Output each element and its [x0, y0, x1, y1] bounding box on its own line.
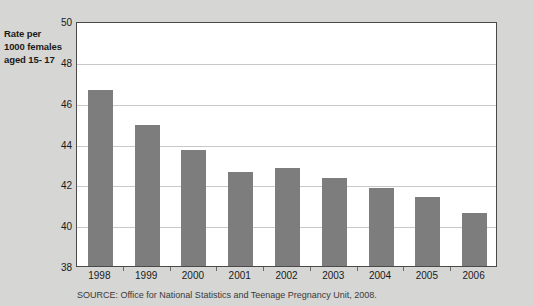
x-axis-tick-label: 2001 — [229, 270, 251, 281]
x-axis-tick-label: 2002 — [275, 270, 297, 281]
bar — [88, 90, 113, 266]
x-axis-tick-label: 1998 — [88, 270, 110, 281]
bar — [415, 197, 440, 266]
y-axis-tick-labels: 50484644424038 — [48, 22, 72, 267]
plot-area — [76, 22, 497, 267]
y-axis-tick-label: 42 — [50, 180, 72, 191]
y-axis-tick-label: 46 — [50, 98, 72, 109]
x-axis-tick-labels: 199819992000200120022003200420052006 — [76, 270, 497, 286]
bar — [322, 178, 347, 266]
bar — [369, 188, 394, 266]
bar — [135, 125, 160, 266]
bar-series — [77, 23, 496, 266]
source-note: SOURCE: Office for National Statistics a… — [77, 290, 377, 300]
chart-figure: Rate per 1000 females aged 15- 17 504846… — [0, 0, 533, 306]
x-axis-tick-label: 2000 — [182, 270, 204, 281]
y-axis-tick-label: 50 — [50, 17, 72, 28]
y-axis-tick-label: 40 — [50, 221, 72, 232]
x-axis-tick-label: 1999 — [135, 270, 157, 281]
x-axis-tick-label: 2004 — [369, 270, 391, 281]
bar — [181, 150, 206, 266]
x-axis-tick-label: 2006 — [462, 270, 484, 281]
bar — [228, 172, 253, 266]
y-axis-tick-label: 44 — [50, 139, 72, 150]
bar — [275, 168, 300, 266]
y-axis-tick-label: 48 — [50, 57, 72, 68]
x-axis-tick-label: 2005 — [416, 270, 438, 281]
bar — [462, 213, 487, 266]
x-axis-tick-label: 2003 — [322, 270, 344, 281]
y-axis-tick-label: 38 — [50, 262, 72, 273]
